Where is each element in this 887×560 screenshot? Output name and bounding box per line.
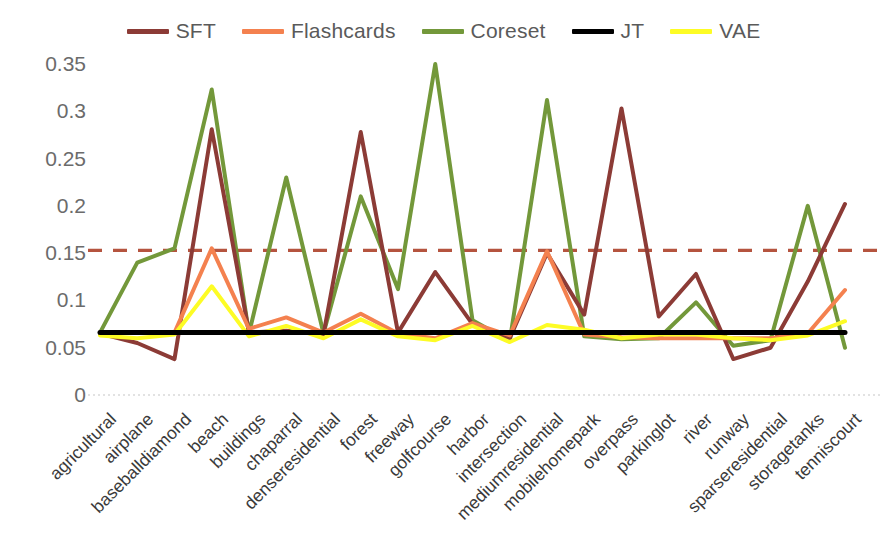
line-chart: SFTFlashcardsCoresetJTVAE 0.350.30.250.2… [0, 0, 887, 560]
x-axis-labels: agriculturalairplanebaseballdiamondbeach… [0, 0, 887, 560]
